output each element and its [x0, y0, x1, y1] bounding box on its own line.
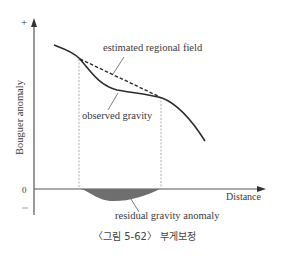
plus-sign: +	[21, 16, 27, 28]
bouguer-correction-diagram: + 0 Bouguer anomaly Distance estimated r…	[0, 0, 283, 256]
y-axis	[31, 18, 37, 215]
y-axis-label: Bouguer anomaly	[14, 79, 25, 155]
figure-caption: 〈그림 5-62〉 부게보정	[93, 231, 196, 242]
observed-gravity-label: observed gravity	[82, 110, 153, 121]
regional-field-label: estimated regional field	[103, 42, 203, 53]
x-axis-label: Distance	[226, 191, 262, 202]
y-axis-arrow-icon	[31, 18, 37, 27]
regional-leader-line	[113, 57, 124, 74]
observed-gravity-curve	[54, 45, 205, 141]
observed-leader-line	[108, 93, 118, 110]
residual-anomaly-label: residual gravity anomaly	[115, 210, 220, 221]
residual-anomaly-area	[81, 189, 160, 201]
zero-tick-label: 0	[22, 185, 27, 195]
